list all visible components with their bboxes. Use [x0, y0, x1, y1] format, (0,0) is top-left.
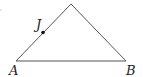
- label-j: J: [33, 17, 42, 32]
- triangle-diagram: J A B: [0, 0, 143, 77]
- side-apex-b: [71, 4, 126, 61]
- label-b: B: [125, 63, 136, 77]
- label-a: A: [8, 63, 18, 77]
- stray-mark: [0, 9, 1, 10]
- point-j-dot: [41, 31, 45, 35]
